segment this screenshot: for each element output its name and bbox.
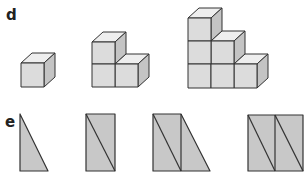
cube-figure-stage-2 [92,32,149,87]
triangle-figure-stage-3 [153,114,210,171]
triangle-figure-stage-4 [248,115,303,171]
triangle-figure-stage-2 [86,114,115,171]
triangle-figure-stage-1 [20,114,48,171]
cube-figure-stage-3 [188,8,268,88]
cube-figure-stage-1 [21,53,55,87]
pattern-diagram: .fr { fill: #dcdcdc; stroke: #333; strok… [0,0,305,178]
